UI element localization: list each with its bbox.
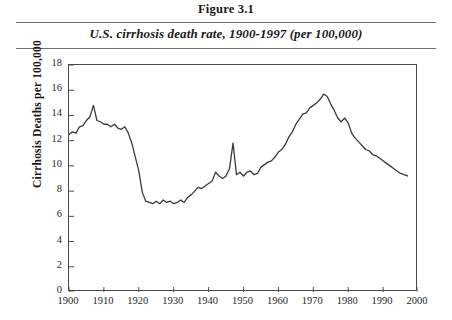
y-tick-label: 0 [40, 284, 62, 295]
axis-ticks-inner [69, 65, 418, 292]
figure-container: Figure 3.1 U.S. cirrhosis death rate, 19… [0, 0, 452, 320]
title-rule-bottom [16, 48, 436, 49]
y-tick-label: 14 [40, 107, 62, 118]
data-series-line [69, 94, 408, 204]
x-tick-label: 1970 [295, 295, 329, 306]
x-tick-label: 1980 [330, 295, 364, 306]
y-tick-label: 16 [40, 82, 62, 93]
figure-number: Figure 3.1 [0, 2, 452, 17]
x-tick-label: 1930 [156, 295, 190, 306]
title-rule-top [16, 22, 436, 23]
y-tick-label: 12 [40, 133, 62, 144]
x-tick-label: 1960 [260, 295, 294, 306]
y-tick-label: 4 [40, 234, 62, 245]
x-tick-label: 1900 [51, 295, 85, 306]
y-tick-label: 2 [40, 259, 62, 270]
y-tick-label: 10 [40, 158, 62, 169]
line-chart-svg [69, 65, 418, 292]
x-tick-label: 1910 [86, 295, 120, 306]
plot-area [68, 64, 417, 291]
y-tick-label: 6 [40, 208, 62, 219]
x-tick-label: 1950 [226, 295, 260, 306]
figure-title: U.S. cirrhosis death rate, 1900-1997 (pe… [16, 26, 436, 42]
y-tick-label: 8 [40, 183, 62, 194]
x-tick-label: 1990 [365, 295, 399, 306]
x-tick-label: 1940 [191, 295, 225, 306]
y-tick-label: 18 [40, 57, 62, 68]
x-tick-label: 1920 [121, 295, 155, 306]
x-tick-label: 2000 [400, 295, 434, 306]
